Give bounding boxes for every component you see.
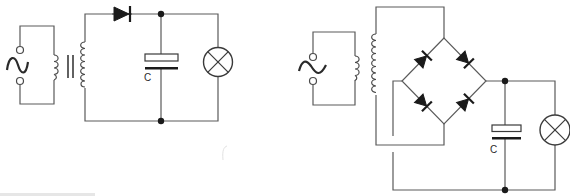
full-wave-bridge-rectifier-circuit: C — [299, 7, 570, 193]
diode — [112, 6, 132, 22]
junction-node-bottom — [158, 118, 164, 124]
capacitor-positive-plate — [145, 54, 178, 61]
transformer-2 — [355, 34, 376, 93]
capacitor-label-2: C — [490, 144, 497, 155]
secondary-bottom-wire — [376, 95, 444, 145]
secondary-coil — [81, 42, 85, 87]
junction-node-top — [158, 11, 164, 17]
secondary-top-wire — [376, 7, 444, 38]
half-wave-rectifier-circuit: C — [7, 6, 233, 124]
secondary-coil-2 — [372, 34, 376, 93]
ac-sine-icon — [7, 58, 28, 72]
rectifier-circuits-diagram: C — [0, 0, 570, 196]
capacitor-negative-plate-2 — [492, 137, 521, 140]
capacitor-label: C — [144, 72, 151, 83]
caption-smudge — [0, 193, 95, 196]
ac-source-2 — [299, 32, 355, 105]
lamp — [204, 48, 233, 77]
capacitor-positive-plate-2 — [492, 125, 521, 132]
diode-triangle-icon — [114, 7, 129, 21]
primary-loop-wire-2 — [313, 32, 355, 105]
ac-sine-icon-2 — [299, 62, 326, 73]
diode-bridge — [402, 38, 486, 124]
junction-node-bottom-2 — [502, 187, 508, 193]
primary-loop-wire — [20, 26, 54, 104]
ac-terminal-top — [17, 47, 24, 54]
junction-node-top-2 — [502, 78, 508, 84]
ac-terminal-bottom-2 — [310, 78, 317, 85]
ac-terminal-bottom — [17, 78, 24, 85]
caption-remnant — [0, 193, 95, 196]
bridge-positive-wire — [486, 81, 555, 115]
lamp-2 — [540, 115, 570, 145]
transformer — [54, 42, 85, 87]
capacitor-negative-plate — [145, 67, 178, 70]
ac-terminal-top-2 — [310, 54, 317, 61]
primary-coil — [54, 55, 58, 80]
scan-artifact — [223, 146, 227, 160]
bridge-diamond-wire — [402, 38, 486, 124]
ac-source — [7, 26, 54, 104]
primary-coil-2 — [355, 56, 359, 81]
